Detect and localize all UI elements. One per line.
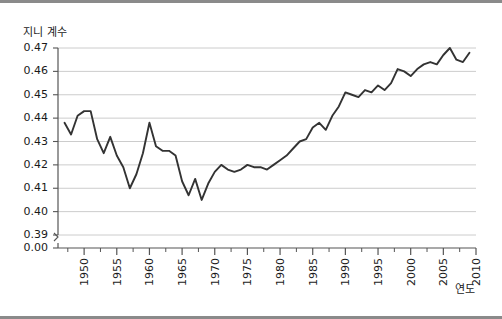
data-series-line — [65, 48, 470, 200]
x-tick-label: 1995 — [372, 258, 385, 286]
x-tick-label: 1970 — [209, 258, 222, 286]
x-tick-label: 1975 — [241, 258, 254, 286]
x-tick-label: 2010 — [470, 258, 483, 286]
x-tick-label: 1985 — [307, 258, 320, 286]
x-tick-label: 2000 — [405, 258, 418, 286]
x-tick-label: 2005 — [437, 258, 450, 286]
y-tick-label: 0.00 — [8, 241, 48, 254]
y-tick-label: 0.42 — [8, 158, 48, 171]
y-tick-label: 0.46 — [8, 64, 48, 77]
x-axis-tick-marks — [68, 248, 476, 255]
y-tick-label: 0.45 — [8, 88, 48, 101]
x-tick-label: 1960 — [143, 258, 156, 286]
gridlines — [58, 48, 476, 235]
chart-figure: 지니 계수 연도 0.470.460.450.440.430.420.410.4… — [0, 0, 502, 319]
x-tick-label: 1980 — [274, 258, 287, 286]
x-tick-label: 1950 — [78, 258, 91, 286]
y-tick-label: 0.39 — [8, 228, 48, 241]
y-tick-label: 0.40 — [8, 205, 48, 218]
x-tick-label: 1990 — [339, 258, 352, 286]
x-tick-label: 1955 — [111, 258, 124, 286]
y-tick-label: 0.41 — [8, 181, 48, 194]
y-tick-label: 0.43 — [8, 135, 48, 148]
y-tick-label: 0.47 — [8, 41, 48, 54]
y-tick-label: 0.44 — [8, 111, 48, 124]
y-axis-tick-marks — [53, 48, 58, 248]
x-tick-label: 1965 — [176, 258, 189, 286]
